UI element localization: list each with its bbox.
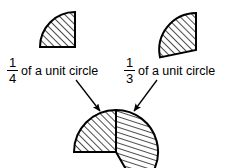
fraction-denominator: 3 bbox=[125, 72, 134, 85]
label-quarter-text: of a unit circle bbox=[21, 64, 98, 78]
fraction-one-quarter: 1 4 bbox=[7, 56, 18, 85]
fraction-one-third: 1 3 bbox=[124, 56, 135, 85]
combined-third-part-fill bbox=[116, 110, 158, 168]
fraction-denominator: 4 bbox=[8, 72, 17, 85]
fraction-numerator: 1 bbox=[8, 56, 17, 69]
quarter-circle-shape bbox=[40, 12, 75, 47]
fraction-numerator: 1 bbox=[125, 56, 134, 69]
combined-figure bbox=[74, 110, 158, 168]
label-quarter-circle: 1 4 of a unit circle bbox=[7, 56, 98, 85]
third-circle-shape bbox=[159, 13, 196, 57]
figure-root: 1 4 of a unit circle 1 3 of a unit circl… bbox=[0, 0, 232, 168]
label-third-text: of a unit circle bbox=[138, 64, 215, 78]
label-third-circle: 1 3 of a unit circle bbox=[124, 56, 215, 85]
